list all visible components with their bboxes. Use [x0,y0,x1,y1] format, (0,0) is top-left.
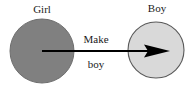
edge-label-line1: Make [83,33,108,45]
edge-label-line2: boy [88,58,105,70]
diagram-canvas: Girl Boy Make boy [0,0,194,86]
diagram-svg: Girl Boy Make boy [0,0,194,86]
node-label-boy: Boy [148,2,167,14]
node-label-girl: Girl [33,3,51,15]
